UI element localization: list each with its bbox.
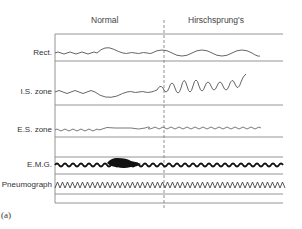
trace-emg: [55, 164, 283, 167]
trace-es-zone: [55, 127, 261, 131]
trace-diagram: [0, 0, 302, 229]
grid-lines: [55, 34, 283, 203]
trace-pneumograph: [55, 182, 285, 188]
emg-burst: [107, 158, 141, 168]
trace-rect: [55, 48, 260, 57]
trace-is-zone: [55, 74, 246, 97]
